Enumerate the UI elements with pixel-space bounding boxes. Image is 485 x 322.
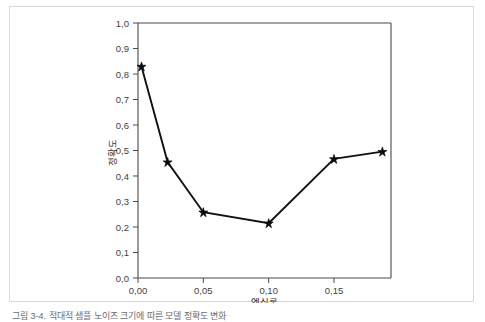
y-tick-label: 0,9 bbox=[116, 43, 129, 54]
x-tick-label: 0,00 bbox=[129, 285, 148, 296]
y-tick-label: 0,2 bbox=[116, 222, 129, 233]
y-tick-label: 0,7 bbox=[116, 94, 129, 105]
y-tick-label: 0,0 bbox=[116, 273, 129, 284]
chart-plot-area: 1,0 0,9 0,8 0,7 0,6 0,5 0,4 0,3 0,2 0,1 … bbox=[10, 7, 475, 303]
y-axis-ticks bbox=[133, 23, 138, 278]
figure-card: 1,0 0,9 0,8 0,7 0,6 0,5 0,4 0,3 0,2 0,1 … bbox=[9, 6, 474, 302]
x-tick-label: 0,05 bbox=[194, 285, 213, 296]
x-axis-tick-labels: 0,00 0,05 0,10 0,15 bbox=[129, 285, 344, 296]
series-markers bbox=[137, 62, 387, 228]
y-tick-label: 1,0 bbox=[116, 18, 129, 29]
y-tick-label: 0,6 bbox=[116, 120, 129, 131]
x-tick-label: 0,15 bbox=[325, 285, 344, 296]
y-tick-label: 0,8 bbox=[116, 69, 129, 80]
data-point-marker bbox=[378, 147, 387, 156]
series-line-accuracy bbox=[142, 66, 383, 223]
line-chart-svg: 1,0 0,9 0,8 0,7 0,6 0,5 0,4 0,3 0,2 0,1 … bbox=[10, 7, 475, 303]
figure-caption: 그림 3-4. 적대적 샘플 노이즈 크기에 따른 모델 정확도 변화 bbox=[12, 311, 452, 322]
chart-axes bbox=[138, 23, 391, 278]
y-axis-title: 정확도 bbox=[107, 139, 118, 166]
x-tick-label: 0,10 bbox=[259, 285, 278, 296]
x-axis-title: 엡실론 bbox=[251, 297, 278, 303]
x-axis-ticks bbox=[138, 278, 334, 283]
y-tick-label: 0,1 bbox=[116, 247, 129, 258]
y-tick-label: 0,4 bbox=[116, 171, 129, 182]
y-tick-label: 0,3 bbox=[116, 196, 129, 207]
